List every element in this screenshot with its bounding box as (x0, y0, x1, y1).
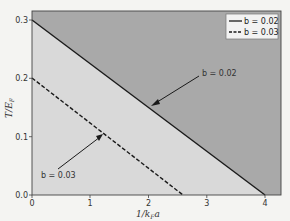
legend: b = 0.02 b = 0.03 (226, 14, 279, 39)
svg-text:b = 0.03: b = 0.03 (41, 171, 76, 180)
x-axis: 0 1 2 3 4 (29, 195, 267, 208)
y-tick-3: 0.3 (15, 16, 28, 25)
x-tick-0: 0 (29, 199, 34, 208)
legend-item-b003: b = 0.03 (244, 28, 279, 37)
x-tick-1: 1 (87, 199, 92, 208)
x-tick-4: 4 (262, 199, 267, 208)
y-tick-2: 0.2 (15, 74, 28, 83)
x-tick-3: 3 (204, 199, 209, 208)
svg-text:b = 0.02: b = 0.02 (202, 69, 237, 78)
chart-svg: 0 1 2 3 4 1/kFa 0.0 0.1 0.2 0.3 T/EF b =… (0, 0, 290, 221)
y-axis-label: T/EF (4, 97, 15, 118)
y-tick-0: 0.0 (15, 191, 28, 200)
y-tick-1: 0.1 (15, 133, 28, 142)
x-axis-label: 1/kFa (136, 209, 160, 220)
y-axis: 0.0 0.1 0.2 0.3 (15, 16, 32, 200)
legend-item-b002: b = 0.02 (244, 17, 279, 26)
x-tick-2: 2 (146, 199, 151, 208)
